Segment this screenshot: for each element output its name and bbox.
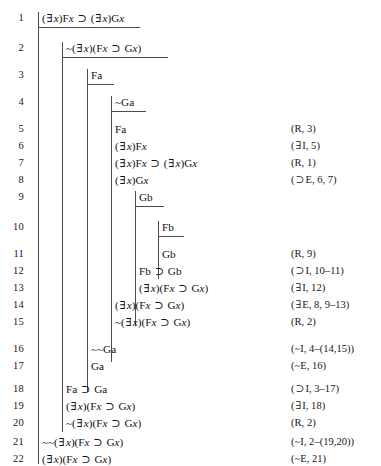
proof-line: 3Fa [0,67,381,83]
line-number: 21 [0,434,24,450]
formula: (∃x)Gx [115,172,149,188]
formula: Fa ⊃ Ga [66,381,107,397]
line-number: 4 [0,94,24,110]
formula: (∃x)(Fx ⊃ Gx) [115,297,184,313]
line-number: 8 [0,172,24,188]
line-number: 22 [0,451,24,466]
line-number: 18 [0,381,24,397]
formula: ~~Ga [91,341,116,357]
line-number: 13 [0,280,24,296]
justification: (∃I, 18) [291,398,325,414]
proof-line: 17Ga(~E, 16) [0,358,381,374]
line-number: 12 [0,263,24,279]
proof-line: 10Fb [0,219,381,235]
justification: (⊃E, 6, 7) [291,172,337,188]
proof-line: 2~(∃x)(Fx ⊃ Gx) [0,40,381,56]
line-number: 1 [0,10,24,26]
assumption-rule-line-1 [38,27,140,28]
formula: Fa [91,67,102,83]
justification: (R, 3) [291,121,316,137]
line-number: 2 [0,40,24,56]
proof-line: 7(∃x)Fx ⊃ (∃x)Gx(R, 1) [0,155,381,171]
proof-line: 11Gb(R, 9) [0,246,381,262]
proof-line: 12Fb ⊃ Gb(⊃I, 10–11) [0,263,381,279]
justification: (R, 2) [291,415,316,431]
justification: (∃E, 8, 9–13) [291,297,349,313]
justification: (~E, 21) [291,451,326,466]
formula: ~~(∃x)(Fx ⊃ Gx) [42,434,123,450]
justification: (⊃I, 10–11) [291,263,344,279]
proof-line: 4~Ga [0,94,381,110]
assumption-rule-line-3 [87,84,114,85]
assumption-rule-line-4 [111,111,146,112]
assumption-rule-line-9 [135,206,164,207]
justification: (R, 2) [291,314,316,330]
formula: ~(∃x)(Fx ⊃ Gx) [66,415,141,431]
assumption-rule-line-10 [158,236,184,237]
justification: (∃I, 12) [291,280,325,296]
justification: (R, 1) [291,155,316,171]
formula: (∃x)Fx ⊃ (∃x)Gx [42,10,124,26]
justification: (~I, 2–(19,20)) [291,434,354,450]
formula: Ga [91,358,104,374]
proof-line: 1(∃x)Fx ⊃ (∃x)Gx [0,10,381,26]
formula: Gb [139,189,153,205]
line-number: 20 [0,415,24,431]
proof-line: 6(∃x)Fx(∃I, 5) [0,138,381,154]
line-number: 16 [0,341,24,357]
proof-line: 9Gb [0,189,381,205]
proof-page: 1(∃x)Fx ⊃ (∃x)Gx2~(∃x)(Fx ⊃ Gx)3Fa4~Ga5F… [0,0,381,466]
proof-line: 16~~Ga(~I, 4–(14,15)) [0,341,381,357]
line-number: 5 [0,121,24,137]
formula: (∃x)Fx [115,138,147,154]
formula: Fb ⊃ Gb [139,263,181,279]
line-number: 17 [0,358,24,374]
proof-line: 14(∃x)(Fx ⊃ Gx)(∃E, 8, 9–13) [0,297,381,313]
proof-line: 22(∃x)(Fx ⊃ Gx)(~E, 21) [0,451,381,466]
formula: Fb [162,219,174,235]
formula: ~(∃x)(Fx ⊃ Gx) [115,314,190,330]
proof-line: 21~~(∃x)(Fx ⊃ Gx)(~I, 2–(19,20)) [0,434,381,450]
line-number: 3 [0,67,24,83]
formula: Gb [162,246,176,262]
formula: (∃x)(Fx ⊃ Gx) [66,398,135,414]
formula: (∃x)Fx ⊃ (∃x)Gx [115,155,197,171]
line-number: 14 [0,297,24,313]
line-number: 9 [0,189,24,205]
formula: ~Ga [115,94,134,110]
justification: (R, 9) [291,246,316,262]
line-number: 19 [0,398,24,414]
proof-line: 19(∃x)(Fx ⊃ Gx)(∃I, 18) [0,398,381,414]
justification: (⊃I, 3–17) [291,381,339,397]
proof-line: 13(∃x)(Fx ⊃ Gx)(∃I, 12) [0,280,381,296]
proof-line: 5Fa(R, 3) [0,121,381,137]
line-number: 6 [0,138,24,154]
proof-line: 8(∃x)Gx(⊃E, 6, 7) [0,172,381,188]
line-number: 15 [0,314,24,330]
formula: ~(∃x)(Fx ⊃ Gx) [66,40,141,56]
proof-line: 15~(∃x)(Fx ⊃ Gx)(R, 2) [0,314,381,330]
formula: Fa [115,121,126,137]
justification: (~E, 16) [291,358,326,374]
formula: (∃x)(Fx ⊃ Gx) [139,280,208,296]
proof-line: 18Fa ⊃ Ga(⊃I, 3–17) [0,381,381,397]
proof-line: 20~(∃x)(Fx ⊃ Gx)(R, 2) [0,415,381,431]
assumption-rule-line-2 [62,57,168,58]
line-number: 7 [0,155,24,171]
justification: (~I, 4–(14,15)) [291,341,354,357]
line-number: 11 [0,246,24,262]
justification: (∃I, 5) [291,138,320,154]
formula: (∃x)(Fx ⊃ Gx) [42,451,111,466]
line-number: 10 [0,219,24,235]
